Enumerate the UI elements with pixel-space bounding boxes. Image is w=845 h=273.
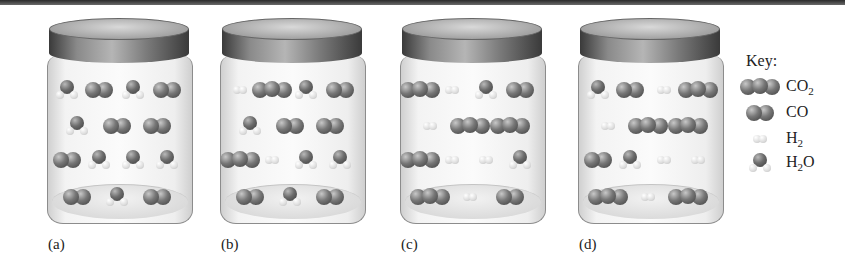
h2o-molecule-icon [56,80,78,100]
h2o-molecule-icon [239,116,261,136]
jar-label-d: (d) [579,236,597,253]
key-item-h2: H2 [740,128,845,150]
co2-molecule-icon [410,187,450,207]
h2-molecule-icon [462,187,478,207]
jar-b [220,18,366,224]
h2o-molecule-icon [156,150,178,170]
key-label: H2O [786,153,815,173]
jar-d [578,18,724,224]
key-label: CO [786,103,808,121]
h2-molecule-icon [422,116,438,136]
co2-molecule-icon [678,80,718,100]
h2-molecule-icon [656,80,672,100]
key-item-co: CO [740,102,845,124]
jar-label-b: (b) [221,236,239,253]
co2-molecule-icon [668,187,708,207]
h2o-molecule-icon [475,80,497,100]
co-molecule-icon [276,116,304,136]
co-molecule-icon [496,187,524,207]
co2-molecule-icon [490,116,530,136]
top-rule [0,0,845,5]
h2o-molecule-icon [122,150,144,170]
co2-molecule-icon [628,116,668,136]
h2o-molecule-icon [122,80,144,100]
h2-molecule-icon [478,150,494,170]
h2o-molecule-icon [66,116,88,136]
co2-molecule-icon [220,150,260,170]
h2o-molecule-icon [88,150,110,170]
jar-lid [402,18,542,64]
key-title: Key: [746,52,777,70]
h2-molecule-icon [444,80,460,100]
co-molecule-icon [616,80,644,100]
co-molecule-icon [103,116,131,136]
h2-molecule-icon [640,187,656,207]
key-label: H2 [786,129,803,149]
h2-molecule-icon [690,150,706,170]
jar-label-c: (c) [401,236,418,253]
co-molecule-icon [584,150,612,170]
co-molecule-icon [326,80,354,100]
h2o-molecule-icon [295,80,317,100]
h2-molecule-icon [752,129,768,149]
co2-molecule-icon [400,150,440,170]
jar-lid [49,18,189,64]
h2o-molecule-icon [587,80,609,100]
co-molecule-icon [63,187,91,207]
h2-molecule-icon [656,150,672,170]
co-molecule-icon [143,187,171,207]
co-molecule-icon [236,187,264,207]
jar-label-a: (a) [48,236,65,253]
h2o-molecule-icon [295,150,317,170]
co-molecule-icon [153,80,181,100]
h2o-molecule-icon [329,150,351,170]
lid-top [580,18,720,40]
h2o-molecule-icon [749,153,771,173]
co2-molecule-icon [740,77,780,97]
co-molecule-icon [746,103,774,123]
jar-a [47,18,193,224]
key-item-co2: CO2 [740,76,845,98]
co-molecule-icon [143,116,171,136]
jar-c [400,18,546,224]
jar-lid [580,18,720,64]
co2-molecule-icon [252,80,292,100]
co2-molecule-icon [668,116,708,136]
co2-molecule-icon [450,116,490,136]
co-molecule-icon [53,150,81,170]
lid-top [222,18,362,40]
h2-molecule-icon [232,80,248,100]
h2o-molecule-icon [619,150,641,170]
h2-molecule-icon [264,150,280,170]
co2-molecule-icon [400,80,440,100]
h2o-molecule-icon [279,187,301,207]
lid-top [402,18,542,40]
co-molecule-icon [506,80,534,100]
lid-top [49,18,189,40]
co-molecule-icon [85,80,113,100]
h2o-molecule-icon [509,150,531,170]
co-molecule-icon [316,187,344,207]
key-item-h2o: H2O [740,152,845,174]
jar-lid [222,18,362,64]
key-label: CO2 [786,77,814,97]
h2-molecule-icon [600,116,616,136]
h2o-molecule-icon [106,187,128,207]
co-molecule-icon [316,116,344,136]
co2-molecule-icon [588,187,628,207]
h2-molecule-icon [444,150,460,170]
